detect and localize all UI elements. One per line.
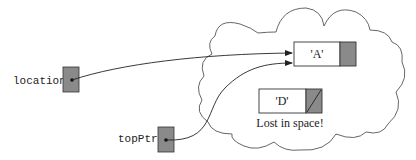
topptr-label: topPtr bbox=[118, 133, 158, 145]
location-label: location bbox=[13, 75, 66, 87]
lost-in-space-caption: Lost in space! bbox=[256, 116, 323, 130]
node-d: 'D' bbox=[259, 89, 322, 113]
node-a-next bbox=[340, 42, 356, 66]
node-a: 'A' bbox=[294, 42, 356, 66]
diagram-canvas: location topPtr 'A' 'D' Lost in space! bbox=[0, 0, 416, 160]
node-d-value: 'D' bbox=[276, 94, 289, 108]
node-a-value: 'A' bbox=[311, 47, 324, 61]
